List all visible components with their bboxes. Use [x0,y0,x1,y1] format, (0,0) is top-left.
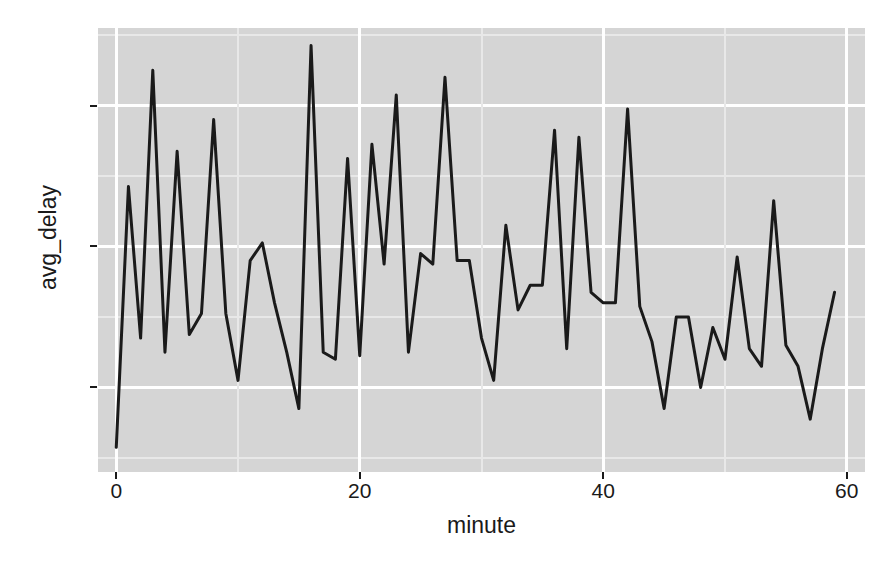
avg-delay-line [116,46,834,448]
x-axis-title: minute [98,512,865,539]
y-axis-title: avg_delay [35,138,62,338]
x-tick-label: 20 [348,479,371,503]
x-tick-mark [115,472,117,479]
y-tick-mark [90,105,97,107]
x-tick-mark [359,472,361,479]
x-tick-mark [846,472,848,479]
x-tick-label: 40 [592,479,615,503]
chart-root: avg_delay 61014 0204060 minute [0,0,882,570]
plot-panel [98,28,865,472]
x-tick-mark [602,472,604,479]
data-line [98,28,865,472]
y-tick-mark [90,386,97,388]
y-tick-mark [90,245,97,247]
x-tick-label: 60 [835,479,858,503]
x-tick-label: 0 [110,479,122,503]
